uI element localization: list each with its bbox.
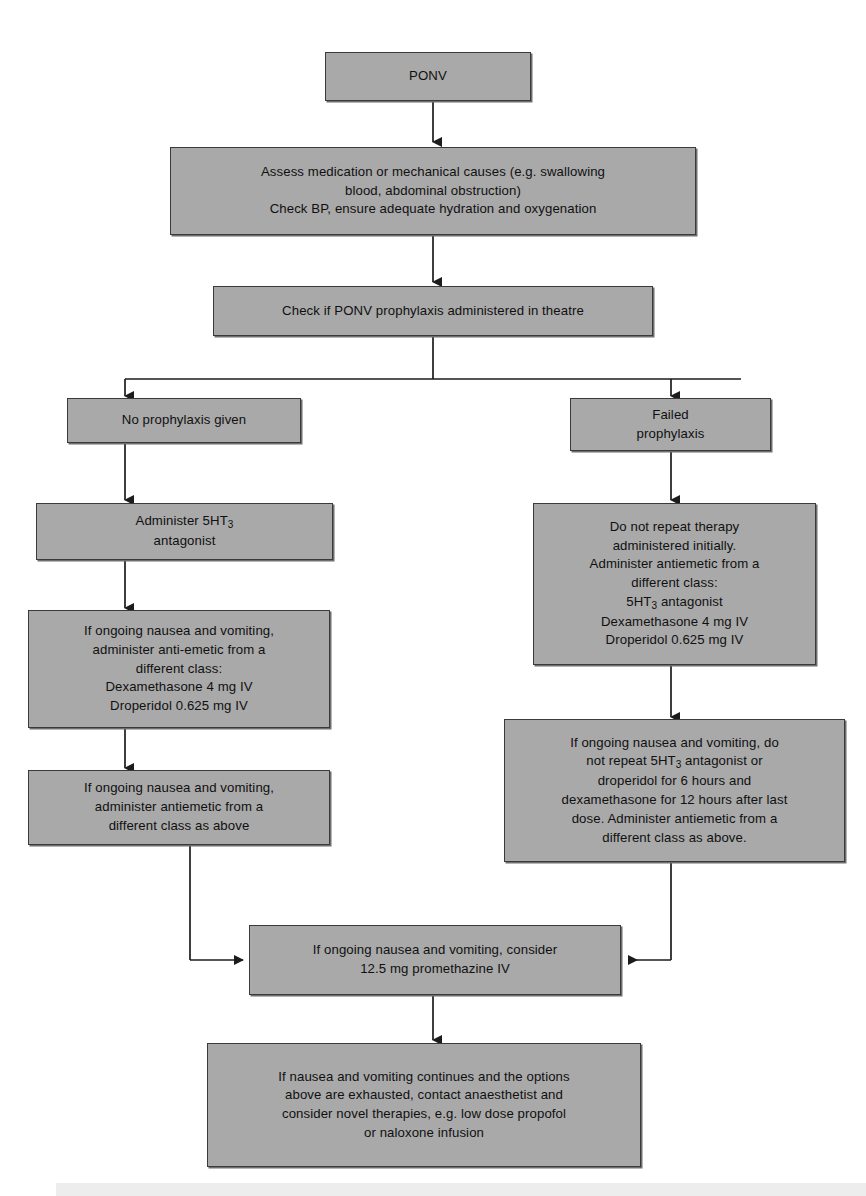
node-novel-therapies: If nausea and vomiting continues and the… [207,1043,641,1167]
node-no-prophylaxis: No prophylaxis given [67,398,301,443]
node-failed-prophylaxis: Failed prophylaxis [570,398,771,451]
node-right-second-line-label: Do not repeat therapy administered initi… [540,518,809,650]
node-administer-5ht3-label: Administer 5HT3 antagonist [43,512,326,551]
bottom-caption-band [56,1183,866,1196]
node-novel-therapies-label: If nausea and vomiting continues and the… [214,1068,634,1143]
node-promethazine: If ongoing nausea and vomiting, consider… [249,925,621,995]
node-assess-causes-label: Assess medication or mechanical causes (… [177,163,689,219]
node-check-prophylaxis-label: Check if PONV prophylaxis administered i… [220,302,646,321]
node-left-third-line: If ongoing nausea and vomiting, administ… [28,770,330,845]
node-left-second-line-label: If ongoing nausea and vomiting, administ… [35,622,323,716]
node-promethazine-label: If ongoing nausea and vomiting, consider… [256,941,614,978]
node-failed-prophylaxis-label: Failed prophylaxis [577,406,764,443]
node-right-second-line: Do not repeat therapy administered initi… [533,503,816,665]
node-no-prophylaxis-label: No prophylaxis given [74,411,294,430]
node-administer-5ht3: Administer 5HT3 antagonist [36,503,333,560]
node-left-third-line-label: If ongoing nausea and vomiting, administ… [35,779,323,835]
node-left-second-line: If ongoing nausea and vomiting, administ… [28,610,330,728]
node-right-third-line-label: If ongoing nausea and vomiting, do not r… [511,734,838,848]
node-right-third-line: If ongoing nausea and vomiting, do not r… [504,719,845,862]
node-ponv-label: PONV [332,67,524,86]
flowchart-page: PONV Assess medication or mechanical cau… [0,0,866,1196]
node-check-prophylaxis: Check if PONV prophylaxis administered i… [213,286,653,336]
node-assess-causes: Assess medication or mechanical causes (… [170,147,696,235]
subscript-three: 3 [228,519,234,530]
node-ponv: PONV [325,52,531,101]
